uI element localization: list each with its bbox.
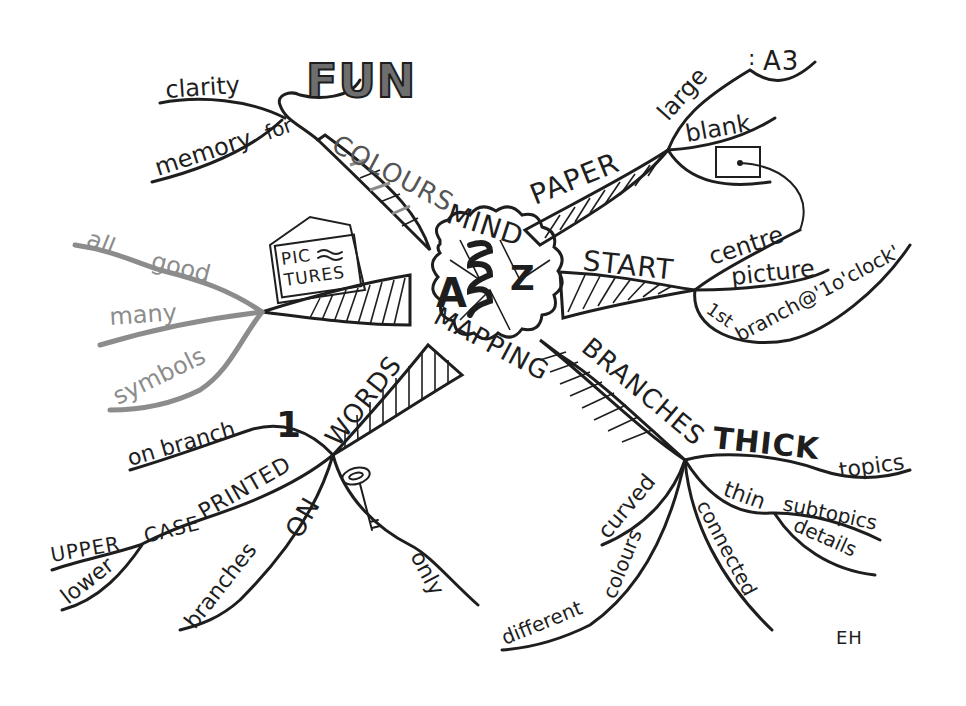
- symbols-label: symbols: [108, 342, 209, 411]
- dot-to-centre-line: [740, 163, 804, 230]
- thin-label: thin: [720, 476, 769, 514]
- wave-icon: [318, 250, 342, 260]
- on-branch-label: on branch: [124, 416, 237, 471]
- branch-paper: PAPER large : A3 blank: [525, 45, 815, 245]
- thick-label: THICK: [711, 420, 822, 466]
- centre-zigzag-s: [470, 243, 490, 315]
- a3-label: A3: [763, 46, 799, 76]
- for-label: for: [262, 112, 297, 144]
- topics-label: topics: [837, 449, 906, 483]
- only-branch: [333, 455, 478, 605]
- memory-label: memory: [151, 124, 255, 182]
- blank-label: blank: [683, 109, 753, 148]
- fun-label: FUN: [306, 54, 416, 108]
- colon-label: :: [748, 45, 755, 70]
- key-icon: [340, 465, 380, 530]
- many-label: many: [108, 298, 177, 331]
- branch-start: START centre picture 1st branch@'1o'cloc…: [560, 220, 910, 346]
- blank-sheet-branch: [668, 150, 770, 184]
- start-label: START: [581, 244, 675, 286]
- artist-signature: EH: [836, 627, 863, 648]
- clarity-label: clarity: [164, 71, 240, 104]
- on-label: ON: [279, 492, 326, 543]
- branches-label: branches: [179, 538, 261, 633]
- case-label: CASE: [141, 511, 202, 548]
- good-label: good: [149, 247, 214, 289]
- one-label: 1: [276, 404, 302, 445]
- branch-branches: BRANCHES THICK topics thin subtopics det…: [498, 332, 910, 650]
- pictures-label-line1: PIC: [280, 245, 313, 269]
- mind-map-canvas: A Z MAPPING COLOURS MIND for clarity mem…: [0, 0, 966, 706]
- centre-letter-z: Z: [510, 258, 536, 298]
- colours-label: COLOURS: [327, 129, 459, 218]
- different-label: different: [498, 596, 586, 650]
